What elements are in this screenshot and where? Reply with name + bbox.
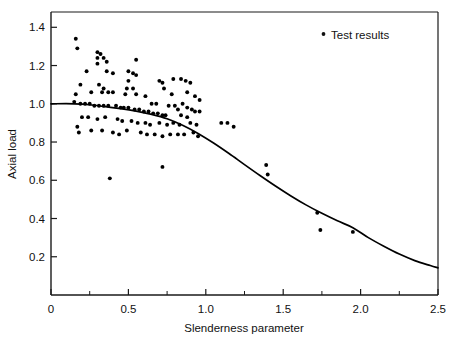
scatter-point: [176, 108, 180, 112]
scatter-point: [195, 123, 199, 127]
scatter-point: [86, 115, 90, 119]
scatter-point: [191, 131, 195, 135]
x-axis-title: Slenderness parameter: [184, 322, 304, 334]
scatter-point: [198, 109, 202, 113]
scatter-point: [78, 102, 82, 106]
scatter-point: [188, 121, 192, 125]
scatter-point: [165, 123, 169, 127]
scatter-point: [111, 90, 115, 94]
scatter-point: [134, 73, 138, 77]
scatter-point: [143, 121, 147, 125]
scatter-point: [161, 81, 165, 85]
scatter-point: [145, 132, 149, 136]
scatter-plot: 00.51.01.52.02.5 0.20.40.60.81.01.21.4 T…: [0, 0, 455, 345]
scatter-point: [171, 77, 175, 81]
scatter-point: [74, 92, 78, 96]
scatter-point: [80, 115, 84, 119]
scatter-point: [182, 132, 186, 136]
scatter-point: [318, 228, 322, 232]
scatter-point: [74, 37, 78, 41]
scatter-point: [89, 129, 93, 133]
scatter-point: [85, 69, 89, 73]
scatter-point: [99, 52, 103, 56]
scatter-point: [120, 119, 124, 123]
scatter-point: [147, 109, 151, 113]
scatter-point: [105, 60, 109, 64]
scatter-point: [136, 121, 140, 125]
scatter-point: [184, 79, 188, 83]
scatter-point: [95, 62, 99, 66]
scatter-point: [100, 129, 104, 133]
scatter-point: [111, 71, 115, 75]
scatter-point: [142, 109, 146, 113]
scatter-point: [134, 58, 138, 62]
scatter-point: [111, 131, 115, 135]
legend-label-test-results: Test results: [331, 29, 389, 41]
y-tick-label: 1.4: [29, 21, 46, 33]
scatter-point: [102, 56, 106, 60]
legend: Test results: [322, 29, 390, 41]
scatter-point: [168, 132, 172, 136]
scatter-point: [181, 102, 185, 106]
scatter-point: [116, 117, 120, 121]
scatter-point: [170, 92, 174, 96]
scatter-point: [100, 90, 104, 94]
y-tick-label: 0.8: [29, 136, 45, 148]
scatter-point: [102, 104, 106, 108]
x-tick-label: 1.0: [198, 303, 214, 315]
scatter-point: [103, 115, 107, 119]
scatter-point: [75, 46, 79, 50]
scatter-point: [185, 115, 189, 119]
y-tick-label: 0.6: [29, 174, 45, 186]
scatter-point: [77, 131, 81, 135]
scatter-point: [106, 104, 110, 108]
x-tick-label: 1.5: [275, 303, 291, 315]
x-tick-label: 2.0: [353, 303, 369, 315]
scatter-point: [130, 119, 134, 123]
scatter-point: [193, 109, 197, 113]
scatter-point: [143, 94, 147, 98]
scatter-point: [153, 132, 157, 136]
scatter-point: [351, 230, 355, 234]
scatter-point: [102, 87, 106, 91]
scatter-point: [134, 92, 138, 96]
scatter-point: [92, 104, 96, 108]
scatter-point: [117, 132, 121, 136]
scatter-point: [161, 134, 165, 138]
scatter-point: [139, 131, 143, 135]
scatter-point: [97, 83, 101, 87]
scatter-point: [88, 102, 92, 106]
figure-background: [0, 0, 455, 345]
scatter-point: [78, 83, 82, 87]
scatter-point: [196, 134, 200, 138]
x-tick-label: 0: [48, 303, 54, 315]
y-tick-label: 1.2: [29, 60, 45, 72]
scatter-point: [95, 56, 99, 60]
scatter-point: [72, 100, 76, 104]
scatter-point: [193, 94, 197, 98]
y-tick-label: 0.2: [29, 251, 45, 263]
scatter-point: [164, 113, 168, 117]
scatter-point: [137, 108, 141, 112]
legend-marker-dot: [322, 32, 326, 36]
scatter-point: [106, 90, 110, 94]
y-tick-label: 1.0: [29, 98, 45, 110]
scatter-point: [185, 106, 189, 110]
scatter-point: [226, 121, 230, 125]
scatter-point: [232, 125, 236, 129]
scatter-point: [97, 104, 101, 108]
scatter-point: [89, 90, 93, 94]
scatter-point: [114, 104, 118, 108]
scatter-point: [126, 79, 130, 83]
scatter-point: [162, 87, 166, 91]
y-axis-title: Axial load: [6, 129, 18, 179]
scatter-point: [176, 132, 180, 136]
scatter-point: [266, 173, 270, 177]
scatter-point: [154, 102, 158, 106]
scatter-point: [126, 106, 130, 110]
scatter-point: [264, 163, 268, 167]
scatter-point: [148, 123, 152, 127]
scatter-point: [171, 121, 175, 125]
scatter-point: [125, 87, 129, 91]
scatter-point: [133, 108, 137, 112]
